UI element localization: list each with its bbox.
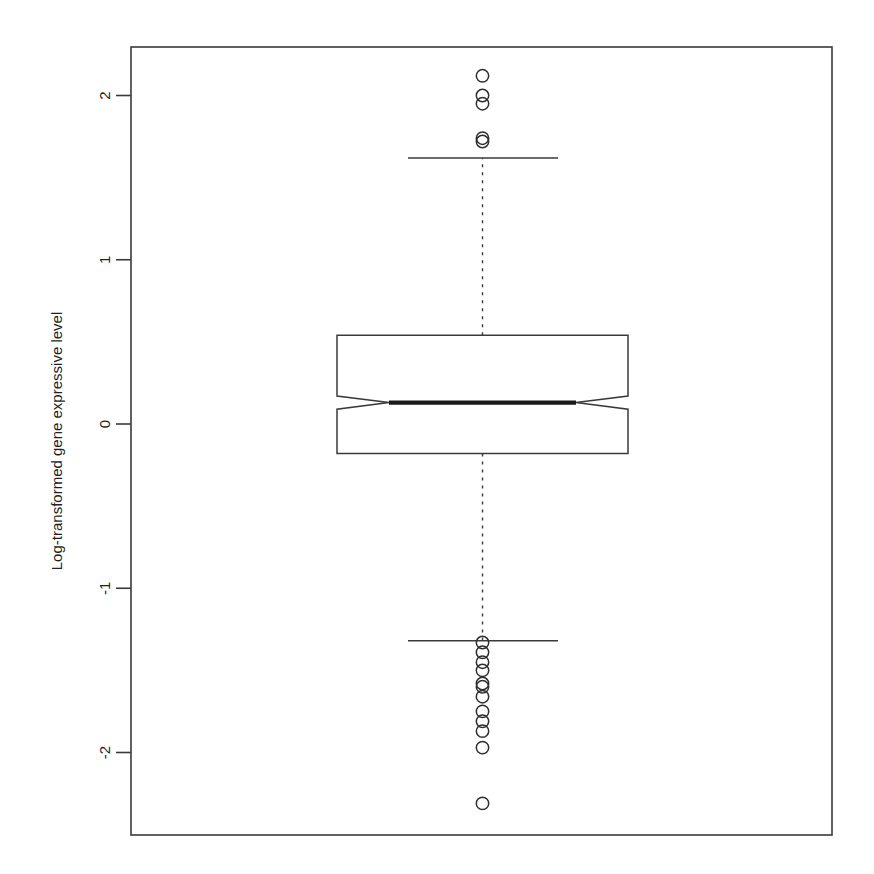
outlier-point xyxy=(476,70,488,82)
y-tick-label: -2 xyxy=(96,746,113,759)
y-tick-label: 0 xyxy=(96,420,113,428)
outlier-point xyxy=(476,98,488,110)
y-tick-label: 1 xyxy=(96,256,113,264)
y-tick-label: -1 xyxy=(96,582,113,595)
box-plot-body xyxy=(337,70,628,810)
y-tick-label: 2 xyxy=(96,91,113,99)
boxplot-figure: -2-1012 Log-transformed gene expressive … xyxy=(0,0,874,874)
chart-canvas: -2-1012 Log-transformed gene expressive … xyxy=(0,0,874,874)
outlier-point xyxy=(476,741,488,753)
outlier-point xyxy=(476,664,488,676)
y-axis-title: Log-transformed gene expressive level xyxy=(48,312,65,570)
notched-box xyxy=(337,335,628,453)
y-axis: -2-1012 xyxy=(96,91,132,759)
outlier-point xyxy=(476,797,488,809)
